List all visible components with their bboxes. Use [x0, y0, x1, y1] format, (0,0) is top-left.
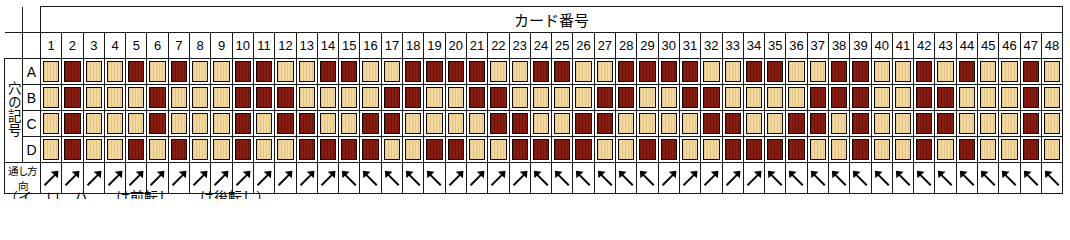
punched-square-dark: [725, 139, 741, 160]
hole-cell-a-37: [807, 59, 828, 85]
hole-row-c: C: [5, 111, 1063, 137]
hole-cell-a-3: [83, 59, 104, 85]
punched-square-tan: [618, 113, 634, 134]
hole-cell-c-46: [999, 111, 1020, 137]
punched-square-dark: [341, 139, 357, 160]
hole-cell-a-24: [530, 59, 551, 85]
punched-square-tan: [43, 113, 59, 134]
hole-cell-a-25: [552, 59, 573, 85]
punched-square-dark: [341, 61, 357, 82]
punched-square-dark: [171, 61, 187, 82]
hole-cell-d-8: [190, 137, 211, 163]
punched-square-tan: [1001, 113, 1017, 134]
arrow-up-left-icon: [531, 168, 551, 188]
hole-cell-c-26: [573, 111, 594, 137]
hole-cell-b-47: [1020, 85, 1041, 111]
punched-square-tan: [533, 113, 549, 134]
hole-cell-c-37: [807, 111, 828, 137]
punched-square-dark: [746, 139, 762, 160]
hole-cell-b-6: [147, 85, 168, 111]
direction-cell-34: [743, 163, 764, 194]
hole-cell-c-33: [722, 111, 743, 137]
hole-cell-d-39: [850, 137, 871, 163]
direction-cell-30: [658, 163, 679, 194]
punched-square-tan: [554, 87, 570, 108]
column-number-6: 6: [147, 33, 168, 59]
hole-cell-b-13: [296, 85, 317, 111]
hole-cell-c-32: [701, 111, 722, 137]
hole-cell-d-13: [296, 137, 317, 163]
hole-cell-c-21: [466, 111, 487, 137]
punched-square-dark: [277, 87, 293, 108]
hole-cell-a-29: [637, 59, 658, 85]
hole-cell-a-14: [317, 59, 338, 85]
column-number-21: 21: [466, 33, 487, 59]
punched-square-dark: [703, 113, 719, 134]
hole-cell-d-24: [530, 137, 551, 163]
punched-square-dark: [639, 139, 655, 160]
punched-square-tan: [767, 87, 783, 108]
hole-cell-a-10: [232, 59, 253, 85]
hole-cell-c-15: [339, 111, 360, 137]
punched-square-tan: [980, 61, 996, 82]
punched-square-tan: [213, 113, 229, 134]
punched-square-tan: [448, 87, 464, 108]
punched-square-tan: [937, 139, 953, 160]
hole-cell-b-16: [360, 85, 381, 111]
punched-square-tan: [575, 61, 591, 82]
punched-square-tan: [490, 139, 506, 160]
punched-square-dark: [554, 61, 570, 82]
column-number-39: 39: [850, 33, 871, 59]
arrow-up-left-icon: [808, 168, 828, 188]
direction-cell-48: [1041, 163, 1062, 194]
direction-cell-29: [637, 163, 658, 194]
hole-cell-b-45: [978, 85, 999, 111]
punched-square-tan: [874, 61, 890, 82]
punched-square-dark: [852, 139, 868, 160]
hole-cell-d-7: [168, 137, 189, 163]
hole-cell-b-38: [828, 85, 849, 111]
punched-square-tan: [512, 61, 528, 82]
hole-cell-b-27: [594, 85, 615, 111]
punched-square-tan: [1044, 61, 1060, 82]
punched-square-dark: [362, 139, 378, 160]
punched-square-tan: [277, 139, 293, 160]
hole-cell-d-16: [360, 137, 381, 163]
punched-square-tan: [128, 87, 144, 108]
punched-square-tan: [426, 87, 442, 108]
punched-square-dark: [682, 87, 698, 108]
punched-square-tan: [107, 113, 123, 134]
hole-row-d: D: [5, 137, 1063, 163]
punched-square-dark: [937, 113, 953, 134]
punched-square-dark: [597, 113, 613, 134]
hole-cell-a-22: [488, 59, 509, 85]
hole-cell-c-16: [360, 111, 381, 137]
punched-square-dark: [448, 139, 464, 160]
row-label-c: C: [23, 111, 41, 137]
hole-cell-b-20: [445, 85, 466, 111]
punched-square-tan: [256, 139, 272, 160]
hole-cell-c-43: [935, 111, 956, 137]
arrow-up-left-icon: [765, 168, 785, 188]
punched-square-dark: [362, 113, 378, 134]
column-number-10: 10: [232, 33, 253, 59]
column-number-37: 37: [807, 33, 828, 59]
column-number-35: 35: [765, 33, 786, 59]
column-number-36: 36: [786, 33, 807, 59]
hole-cell-b-2: [62, 85, 83, 111]
hole-cell-c-9: [211, 111, 232, 137]
arrow-up-right-icon: [510, 168, 530, 188]
punched-square-dark: [661, 61, 677, 82]
hole-cell-a-11: [253, 59, 274, 85]
arrow-up-right-icon: [680, 168, 700, 188]
direction-cell-47: [1020, 163, 1041, 194]
column-number-17: 17: [381, 33, 402, 59]
punched-square-tan: [661, 87, 677, 108]
hole-cell-a-30: [658, 59, 679, 85]
hole-cell-d-30: [658, 137, 679, 163]
punched-square-dark: [554, 139, 570, 160]
hole-cell-c-13: [296, 111, 317, 137]
punched-square-dark: [639, 61, 655, 82]
hole-cell-d-11: [253, 137, 274, 163]
hole-symbol-label: 穴の記号: [5, 59, 23, 163]
